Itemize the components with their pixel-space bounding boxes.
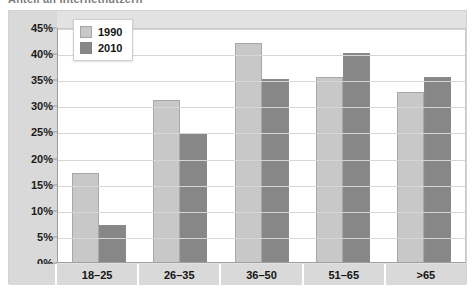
legend-item-1990[interactable]: 1990	[80, 24, 122, 40]
page-title: Anteil an Internetnutzern	[8, 0, 208, 3]
bar-2010-18–25[interactable]	[99, 225, 126, 262]
y-axis-tick-label: 5%	[9, 231, 53, 243]
gridline	[58, 107, 465, 108]
y-axis-tick-label: 25%	[9, 126, 53, 138]
y-axis: 45%40%35%30%25%20%15%10%5%0%	[9, 11, 57, 285]
legend-label-1990: 1990	[98, 25, 122, 39]
bar-groups	[58, 29, 465, 262]
bar-group	[139, 29, 220, 262]
y-axis-tick-label: 35%	[9, 74, 53, 86]
x-axis-category-label: 36–50	[221, 264, 303, 285]
x-axis-category-label: 18–25	[57, 264, 139, 285]
legend-swatch-icon-2010	[80, 42, 92, 54]
y-axis-tick-label: 20%	[9, 153, 53, 165]
x-axis: 18–2526–3536–5051–65>65	[57, 264, 466, 285]
chart-frame: 45%40%35%30%25%20%15%10%5%0% 1990 2010 1…	[8, 10, 467, 284]
gridline	[58, 238, 465, 239]
x-axis-category-label: >65	[386, 264, 466, 285]
bar-1990->65[interactable]	[397, 92, 424, 262]
gridline	[58, 186, 465, 187]
x-axis-category-label: 26–35	[139, 264, 221, 285]
bar-group	[384, 29, 465, 262]
chart-page: Anteil an Internetnutzern 45%40%35%30%25…	[0, 0, 475, 300]
y-axis-tick-label: 10%	[9, 205, 53, 217]
bar-2010->65[interactable]	[424, 77, 451, 262]
gridline	[58, 133, 465, 134]
legend-swatch-icon-1990	[80, 26, 92, 38]
axis-corner	[9, 264, 57, 285]
y-axis-tick-label: 40%	[9, 48, 53, 60]
plot-area	[57, 28, 466, 263]
y-axis-tick-label: 15%	[9, 179, 53, 191]
bar-2010-26–35[interactable]	[180, 134, 207, 262]
x-axis-category-label: 51–65	[304, 264, 386, 285]
gridline	[58, 81, 465, 82]
legend-item-2010[interactable]: 2010	[80, 40, 122, 56]
bar-1990-36–50[interactable]	[235, 43, 262, 262]
gridline	[58, 160, 465, 161]
y-axis-tick-label: 45%	[9, 22, 53, 34]
chart-legend: 1990 2010	[73, 19, 133, 61]
bar-2010-51–65[interactable]	[343, 53, 370, 262]
gridline	[58, 212, 465, 213]
bar-group	[221, 29, 302, 262]
bar-1990-51–65[interactable]	[316, 77, 343, 262]
y-axis-tick-label: 30%	[9, 100, 53, 112]
bar-group	[302, 29, 383, 262]
bar-group	[58, 29, 139, 262]
legend-label-2010: 2010	[98, 41, 122, 55]
